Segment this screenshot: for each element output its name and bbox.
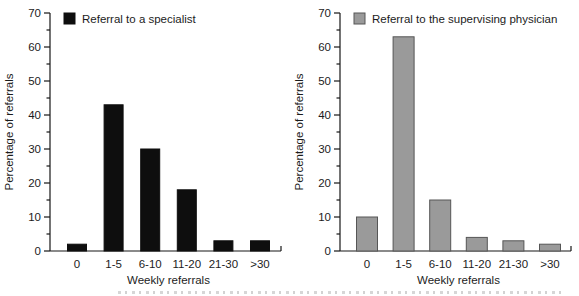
y-tick-label: 10 — [318, 211, 331, 223]
x-tick-label: 6-10 — [429, 258, 452, 270]
legend-swatch — [64, 13, 75, 24]
cropped-caption-fragment — [118, 291, 564, 294]
y-tick-label: 50 — [28, 75, 41, 87]
x-tick-label: 0 — [364, 258, 370, 270]
y-axis-title: Percentage of referrals — [293, 73, 305, 190]
x-tick-label: >30 — [250, 258, 270, 270]
legend-label: Referral to the supervising physician — [372, 13, 557, 25]
bar-chart-svg: 01020304050607001-56-1011-2021-30>30Week… — [290, 0, 579, 296]
bar-6-10 — [430, 200, 451, 251]
y-tick-label: 50 — [318, 75, 331, 87]
bar->30 — [251, 241, 270, 251]
bar-21-30 — [214, 241, 233, 251]
bar->30 — [540, 244, 561, 251]
y-tick-label: 20 — [318, 177, 331, 189]
x-axis-title: Weekly referrals — [127, 274, 210, 286]
y-tick-label: 60 — [318, 41, 331, 53]
bar-21-30 — [503, 241, 524, 251]
bar-1-5 — [393, 37, 414, 251]
x-axis-title: Weekly referrals — [417, 274, 500, 286]
x-tick-label: 0 — [74, 258, 80, 270]
x-tick-label: 1-5 — [395, 258, 412, 270]
legend-swatch — [354, 13, 365, 24]
x-tick-label: 1-5 — [105, 258, 122, 270]
x-tick-label: 6-10 — [139, 258, 162, 270]
bar-1-5 — [104, 105, 123, 251]
y-tick-label: 0 — [325, 245, 331, 257]
x-tick-label: 11-20 — [463, 258, 492, 270]
y-tick-label: 70 — [28, 7, 41, 19]
y-tick-label: 30 — [28, 143, 41, 155]
legend-label: Referral to a specialist — [82, 13, 197, 25]
y-tick-label: 10 — [28, 211, 41, 223]
chart-referral-supervising-physician: 01020304050607001-56-1011-2021-30>30Week… — [290, 0, 579, 296]
bar-0 — [357, 217, 378, 251]
x-tick-label: 21-30 — [499, 258, 528, 270]
y-tick-label: 60 — [28, 41, 41, 53]
y-tick-label: 40 — [318, 109, 331, 121]
bar-6-10 — [141, 149, 160, 251]
y-tick-label: 30 — [318, 143, 331, 155]
x-tick-label: 21-30 — [209, 258, 238, 270]
bar-11-20 — [466, 237, 487, 251]
y-axis-title: Percentage of referrals — [3, 73, 15, 190]
figure-dual-bar-chart: 01020304050607001-56-1011-2021-30>30Week… — [0, 0, 579, 296]
x-tick-label: >30 — [540, 258, 560, 270]
y-tick-label: 0 — [35, 245, 41, 257]
bar-0 — [68, 244, 87, 251]
x-tick-label: 11-20 — [173, 258, 202, 270]
y-tick-label: 70 — [318, 7, 331, 19]
y-tick-label: 20 — [28, 177, 41, 189]
bar-11-20 — [177, 190, 196, 251]
chart-referral-specialist: 01020304050607001-56-1011-2021-30>30Week… — [0, 0, 289, 296]
y-tick-label: 40 — [28, 109, 41, 121]
bar-chart-svg: 01020304050607001-56-1011-2021-30>30Week… — [0, 0, 289, 296]
